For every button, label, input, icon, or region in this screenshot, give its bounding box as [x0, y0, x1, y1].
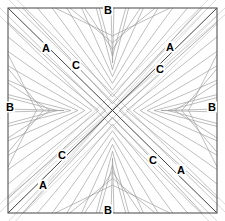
label-c-bottom-right: C	[148, 155, 158, 166]
label-b-right: B	[207, 102, 217, 113]
label-a-bottom-left: A	[38, 180, 48, 191]
nested-triangle-right-3	[140, 66, 217, 156]
nested-triangle-bottom-3	[67, 138, 158, 213]
label-a-top-left: A	[41, 43, 51, 54]
label-b-top: B	[103, 5, 113, 16]
label-c-top-left: C	[71, 60, 81, 71]
label-a-top-right: A	[165, 42, 175, 53]
label-b-left: B	[5, 102, 15, 113]
label-c-bottom-left: C	[57, 150, 67, 161]
figure-canvas: BBBBAAAACCCC	[0, 0, 225, 221]
geometric-diagram-svg	[0, 0, 225, 221]
label-b-bottom: B	[103, 205, 113, 216]
label-c-top-right: C	[155, 64, 165, 75]
label-a-bottom-right: A	[176, 165, 186, 176]
